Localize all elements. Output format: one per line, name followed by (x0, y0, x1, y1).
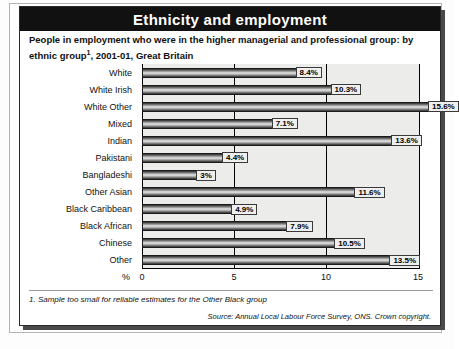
x-axis: % 0 5 10 15 (29, 269, 433, 286)
axis-tick-15: 15 (413, 272, 423, 282)
bar-row: Black Caribbean4.9% (29, 201, 433, 218)
bar (142, 221, 287, 231)
bar (142, 238, 335, 248)
bar (142, 153, 223, 163)
bar-row: Black African7.9% (29, 218, 433, 235)
bar-track: 11.6% (137, 184, 428, 201)
bar (142, 187, 355, 197)
bar-row: Pakistani4.4% (29, 149, 433, 166)
bar-value-label: 4.4% (222, 152, 248, 163)
bar-track: 15.6% (137, 98, 428, 115)
bar-category-label: Bangladeshi (29, 170, 137, 180)
subtitle-line2-rest: , 2001-01, Great Britain (90, 50, 193, 61)
bar-track: 7.9% (137, 218, 428, 235)
bar-value-label: 13.5% (389, 255, 420, 266)
bar-with-label: 7.1% (142, 119, 298, 129)
bar (142, 170, 197, 180)
bar-category-label: White (29, 68, 137, 78)
bar-row: Other Asian11.6% (29, 184, 433, 201)
bar-row: Mixed7.1% (29, 115, 433, 132)
bar-row: White Irish10.3% (29, 81, 433, 98)
bar-with-label: 15.6% (142, 102, 459, 112)
source-text: Source: Annual Local Labour Force Survey… (208, 312, 431, 321)
bar-track: 13.6% (137, 132, 428, 149)
bar-value-label: 4.9% (231, 204, 257, 215)
bar (142, 136, 392, 146)
bar-with-label: 13.6% (142, 136, 422, 146)
axis-tick-10: 10 (321, 272, 331, 282)
bar-category-label: Chinese (29, 238, 137, 248)
bar-category-label: Other (29, 255, 137, 265)
axis-tick-5: 5 (231, 272, 236, 282)
bar-value-label: 11.6% (354, 187, 384, 198)
bar-value-label: 7.9% (286, 221, 312, 232)
bar-category-label: Other Asian (29, 187, 137, 197)
bar-with-label: 4.4% (142, 153, 248, 163)
chart-subtitle: People in employment who were in the hig… (29, 34, 429, 62)
bar-row: Bangladeshi3% (29, 166, 433, 183)
bar-row: Indian13.6% (29, 132, 433, 149)
bar-rows: White8.4%White Irish10.3%White Other15.6… (29, 64, 433, 269)
bar-value-label: 10.5% (334, 238, 365, 249)
bar-value-label: 10.3% (331, 84, 362, 95)
bar-with-label: 3% (142, 170, 216, 180)
bar-value-label: 7.1% (272, 118, 298, 129)
chart-card: Ethnicity and employment People in emplo… (19, 6, 441, 326)
bar-with-label: 11.6% (142, 187, 385, 197)
bar (142, 204, 232, 214)
footnote-divider (29, 290, 433, 291)
bar (142, 85, 332, 95)
bar-with-label: 4.9% (142, 204, 257, 214)
bar-chart: White8.4%White Irish10.3%White Other15.6… (29, 64, 433, 286)
bar-with-label: 7.9% (142, 221, 313, 231)
subtitle-line2: group (60, 50, 87, 61)
bar-with-label: 10.3% (142, 85, 361, 95)
bar (142, 255, 390, 265)
bar-value-label: 3% (196, 170, 216, 181)
bar-track: 10.5% (137, 235, 428, 252)
bar-row: Other13.5% (29, 252, 433, 269)
bar-track: 7.1% (137, 115, 428, 132)
bar-with-label: 8.4% (142, 68, 322, 78)
bar-row: White Other15.6% (29, 98, 433, 115)
bar-track: 4.4% (137, 149, 428, 166)
bar-track: 3% (137, 166, 428, 183)
bar-track: 10.3% (137, 81, 428, 98)
bar-track: 8.4% (137, 64, 428, 81)
bar (142, 102, 429, 112)
bar (142, 119, 273, 129)
bar (142, 68, 297, 78)
bar-category-label: Mixed (29, 119, 137, 129)
axis-unit-label: % (122, 272, 130, 282)
bar-with-label: 13.5% (142, 255, 420, 265)
bar-track: 13.5% (137, 252, 428, 269)
footnote-text: 1. Sample too small for reliable estimat… (29, 295, 267, 304)
bar-with-label: 10.5% (142, 238, 365, 248)
bar-category-label: Black African (29, 221, 137, 231)
title-band: Ethnicity and employment (20, 7, 440, 31)
bar-row: White8.4% (29, 64, 433, 81)
bar-track: 4.9% (137, 201, 428, 218)
axis-tick-0: 0 (139, 272, 144, 282)
page-title: Ethnicity and employment (133, 11, 327, 28)
bar-category-label: Black Caribbean (29, 204, 137, 214)
bar-category-label: White Irish (29, 85, 137, 95)
bar-category-label: Indian (29, 136, 137, 146)
bar-value-label: 15.6% (428, 101, 459, 112)
bar-category-label: White Other (29, 102, 137, 112)
bar-row: Chinese10.5% (29, 235, 433, 252)
bar-value-label: 8.4% (296, 67, 322, 78)
bar-category-label: Pakistani (29, 153, 137, 163)
bar-value-label: 13.6% (391, 135, 422, 146)
